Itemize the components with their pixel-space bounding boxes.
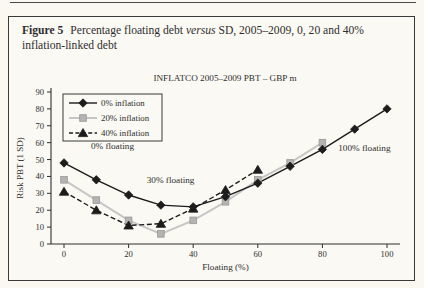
y-tick-label: 90 (35, 87, 44, 97)
figure-panel: Figure 5Percentage floating debt versus … (8, 16, 415, 281)
marker-square (61, 177, 68, 184)
x-tick-label: 20 (124, 249, 133, 259)
y-tick-label: 60 (35, 138, 44, 148)
marker-triangle (92, 206, 101, 214)
figure-caption-text: Percentage floating debt (70, 24, 186, 37)
y-tick-label: 80 (35, 104, 44, 114)
marker-square (93, 197, 100, 204)
y-tick-label: 30 (35, 188, 44, 198)
figure-caption-italic: versus (186, 24, 216, 37)
chart-title: INFLATCO 2005–2009 PBT – GBP m (153, 73, 296, 83)
marker-diamond (60, 159, 68, 167)
page-top-rule (10, 2, 416, 3)
x-tick-label: 0 (62, 249, 66, 259)
y-tick-label: 20 (35, 205, 44, 215)
x-tick-label: 80 (318, 249, 327, 259)
marker-square (190, 217, 197, 224)
marker-diamond (351, 125, 359, 133)
marker-diamond (383, 105, 391, 113)
marker-diamond (124, 191, 132, 199)
figure-caption: Figure 5Percentage floating debt versus … (22, 24, 402, 53)
marker-diamond (157, 201, 165, 209)
y-axis-title: Risk PBT (1 SD) (15, 137, 25, 199)
marker-triangle (59, 187, 68, 195)
legend-label-0: 0% inflation (101, 98, 145, 108)
y-tick-label: 0 (40, 239, 44, 249)
annotation-1: 30% floating (147, 175, 195, 185)
x-tick-label: 100 (381, 249, 394, 259)
y-tick-label: 40 (35, 171, 44, 181)
chart-svg: INFLATCO 2005–2009 PBT – GBP m0102030405… (9, 67, 416, 279)
marker-square (80, 115, 87, 122)
figure-caption-label: Figure 5 (22, 24, 63, 37)
marker-diamond (318, 145, 326, 153)
annotation-0: 0% floating (91, 141, 135, 151)
annotation-2: 100% floating (338, 143, 391, 153)
legend-label-2: 40% inflation (101, 128, 150, 138)
y-tick-label: 10 (35, 222, 44, 232)
marker-diamond (92, 176, 100, 184)
x-axis-title: Floating (%) (202, 262, 249, 272)
marker-square (158, 231, 165, 238)
y-tick-label: 50 (35, 155, 44, 165)
marker-triangle (253, 165, 262, 173)
chart: INFLATCO 2005–2009 PBT – GBP m0102030405… (9, 67, 416, 279)
y-tick-label: 70 (35, 121, 44, 131)
x-tick-label: 60 (254, 249, 263, 259)
legend-label-1: 20% inflation (101, 113, 150, 123)
x-tick-label: 40 (189, 249, 198, 259)
